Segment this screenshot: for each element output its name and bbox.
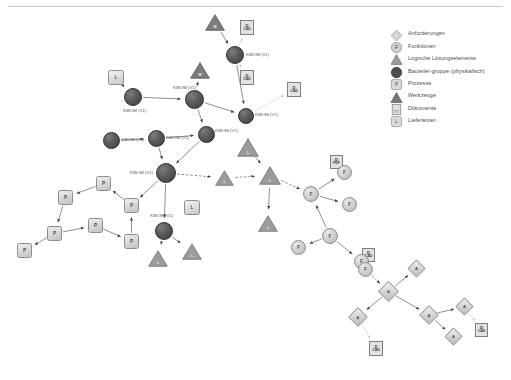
process-node-7[interactable]: P [124,234,139,249]
process-shape: P [58,190,73,205]
tool-node-top-left[interactable]: W [205,14,225,31]
process-shape: P [96,176,111,191]
node-glyph: A [381,284,396,299]
graph-edge [395,275,408,286]
process-node-3[interactable]: P [47,226,62,241]
requirement-node-left[interactable]: A [351,310,365,324]
logic-node-center-1[interactable]: L [237,138,259,157]
part-node-kibom-3[interactable]: KIBOM (V1) [185,90,204,109]
graph-edge [320,196,338,201]
function-shape: F [342,197,357,212]
node-label: KIBOM (V1) [150,214,173,218]
function-node-2[interactable]: F [337,165,352,180]
tool-node-upper-mid[interactable]: W [190,62,210,79]
function-shape: F [337,165,352,180]
process-node-5[interactable]: P [88,218,103,233]
graph-edge [159,148,162,159]
node-label: KIBOM (V1) [130,171,153,175]
requirement-node-mid[interactable]: A [422,308,436,322]
svg-text:L: L [395,120,398,125]
node-label: KIBOM (V1) [123,109,146,113]
requirement-node-right[interactable]: A [458,300,471,313]
function-shape: F [303,186,319,202]
document-node-bottom[interactable]: DCAD [369,341,383,356]
legend-label: Funktionen [408,44,436,49]
node-glyph: L [115,75,118,80]
part-shape [155,222,173,240]
part-node-kibom-7[interactable]: KIBOM (V1) [198,126,215,143]
document-shape: DCAD [240,70,254,85]
graph-edge [177,174,210,177]
node-glyph: L [182,254,202,258]
graph-edge [113,191,125,200]
process-shape: P [124,234,139,249]
graph-edge [362,324,370,338]
document-node-cad-2[interactable]: DCAD [240,70,254,85]
logic-node-lower-2[interactable]: L [182,243,202,260]
function-shape: F [291,240,306,255]
graph-edge [469,313,475,321]
graph-edge [254,95,284,111]
process-shape: P [17,243,32,258]
graph-edge [172,237,180,243]
node-glyph: L [148,261,168,265]
supplier-node-left[interactable]: L [108,70,124,85]
supplier-node-center[interactable]: L [184,200,200,215]
process-node-6[interactable]: P [124,198,139,213]
function-node-3[interactable]: F [342,197,357,212]
requirement-node-bottom[interactable]: A [447,330,460,343]
node-label: KIBOM (V1) [255,113,278,117]
node-label: KIBOM (V1) [166,136,189,140]
graph-edge [310,239,322,243]
filled-circle-icon [390,65,403,78]
legend: Anforderungen F Funktionen Logische Lösu… [390,28,502,127]
graph-edge [161,241,162,244]
function-shape: F [322,228,338,244]
function-node-1[interactable]: F [303,186,319,202]
document-shape: DCAD [287,82,301,97]
part-node-kibom-6[interactable]: KIBOM (V1) [148,130,165,147]
function-node-4[interactable]: F [322,228,338,244]
logic-node-center-2[interactable]: L [259,166,281,185]
graph-edge [372,276,380,284]
part-node-kibom-1[interactable]: KIBOM (V1) [226,46,244,64]
document-format: CAD [290,90,298,94]
function-node-7[interactable]: F [358,262,373,277]
process-node-4[interactable]: P [17,243,32,258]
node-glyph: A [351,310,365,324]
requirement-node-top[interactable]: A [410,262,423,275]
graph-edge [63,228,84,232]
part-node-kibom-5[interactable]: KIBOM (V1) [103,132,120,149]
legend-label: Prozesse [408,81,431,86]
graph-edge [198,110,202,123]
document-shape: DCAD [240,20,254,35]
graph-edge [205,103,235,112]
logic-node-lower-1[interactable]: L [148,250,168,267]
part-shape [124,88,142,106]
process-shape: P [124,198,139,213]
graph-edge [435,320,445,329]
graph-edge [269,188,270,209]
node-glyph: F [310,192,313,197]
part-node-kibom-hub[interactable]: KIBOM (V1) [156,163,176,183]
document-node-cad-1[interactable]: DCAD [240,20,254,35]
requirement-node-hub[interactable]: A [381,284,396,299]
node-glyph: F [364,267,367,272]
part-node-kibom-lower[interactable]: KIBOM (V1) [155,222,173,240]
graph-edge [235,176,254,177]
node-label: KIBOM (V1) [246,53,269,57]
logic-node-right[interactable]: L [258,215,278,232]
graph-edge [281,181,300,189]
legend-label: Bauteile/-gruppe (physikalisch) [408,69,485,74]
part-node-kibom-2[interactable]: KIBOM (V1) [124,88,142,106]
node-glyph: A [458,300,471,313]
document-node-right[interactable]: DCAD [475,323,488,337]
document-node-cad-3[interactable]: DCAD [287,82,301,97]
node-glyph: P [23,248,26,253]
process-node-2[interactable]: P [58,190,73,205]
document-shape: DCAD [475,323,488,337]
process-node-1[interactable]: P [96,176,111,191]
logic-node-center-3[interactable]: L [215,170,234,186]
function-node-5[interactable]: F [291,240,306,255]
part-node-kibom-4[interactable]: KIBOM (V1) [238,108,254,124]
